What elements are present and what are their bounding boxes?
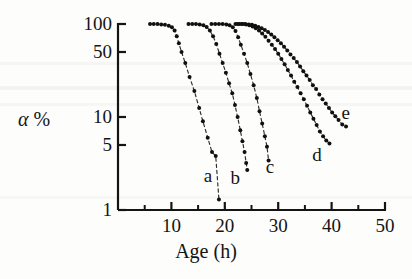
data-point [289, 73, 293, 77]
data-point [233, 103, 237, 107]
data-point [302, 97, 306, 101]
data-point [210, 150, 214, 154]
y-axis-title: α % [18, 108, 50, 131]
x-axis-title: Age (h) [0, 240, 412, 263]
data-point [206, 136, 210, 140]
data-point [152, 22, 156, 26]
y-tick-label-100: 100 [66, 14, 112, 33]
data-series-group [148, 22, 348, 201]
data-point [273, 47, 277, 51]
data-point [333, 114, 337, 118]
data-point [314, 87, 318, 91]
series-label-d: d [312, 145, 322, 164]
data-point [213, 22, 217, 26]
data-point [239, 22, 243, 26]
data-point [214, 42, 218, 46]
data-point [321, 134, 325, 138]
data-point [295, 85, 299, 89]
data-point [299, 91, 303, 95]
data-point [286, 68, 290, 72]
data-point [282, 45, 286, 49]
data-point [183, 61, 187, 65]
data-point [270, 43, 274, 47]
data-point [236, 35, 240, 39]
data-point [276, 38, 280, 42]
data-point [263, 35, 267, 39]
data-point [288, 52, 292, 56]
data-point [340, 123, 344, 127]
data-point [192, 89, 196, 93]
y-axis-title-alpha: α [18, 108, 29, 130]
data-point [267, 39, 271, 43]
data-point [197, 106, 201, 110]
data-point [292, 56, 296, 60]
y-tick-label-50: 50 [66, 42, 112, 61]
data-point [236, 115, 240, 119]
data-point [159, 22, 163, 26]
data-point [279, 41, 283, 45]
series-label-a: a [204, 166, 212, 185]
y-axis-title-percent: % [34, 108, 51, 130]
data-point [209, 22, 213, 26]
data-point [292, 80, 296, 84]
series-label-c: c [266, 157, 274, 176]
data-series-d [233, 22, 331, 145]
data-point [240, 139, 244, 143]
data-point [221, 61, 225, 65]
data-point [205, 25, 209, 29]
data-point [217, 22, 221, 26]
data-series-c [209, 22, 270, 163]
data-point [201, 119, 205, 123]
data-point [317, 92, 321, 96]
data-point [344, 125, 348, 129]
data-point [248, 72, 252, 76]
data-point [283, 62, 287, 66]
data-point [276, 52, 280, 56]
data-point [272, 35, 276, 39]
x-tick-label-20: 20 [205, 216, 245, 235]
data-point [321, 97, 325, 101]
y-tick-label-5: 5 [66, 135, 112, 154]
data-point [301, 69, 305, 73]
data-point [243, 150, 247, 154]
data-point [175, 34, 179, 38]
data-point [236, 22, 240, 26]
x-tick-label-30: 30 [258, 216, 298, 235]
data-point [211, 34, 215, 38]
data-point [188, 75, 192, 79]
data-point [190, 22, 194, 26]
data-point [327, 106, 331, 110]
data-point [208, 29, 212, 33]
data-point [330, 110, 334, 114]
data-point [252, 83, 256, 87]
data-point [255, 96, 259, 100]
data-point [265, 145, 269, 149]
series-label-e: e [342, 103, 350, 122]
data-point [217, 52, 221, 56]
series-connector-line [188, 24, 247, 170]
data-point [230, 91, 234, 95]
data-point [260, 122, 264, 126]
data-point [266, 30, 270, 34]
data-point [327, 141, 331, 145]
data-point [295, 60, 299, 64]
series-label-b: b [230, 168, 240, 187]
chart-plot-area [0, 0, 412, 279]
x-tick-label-40: 40 [312, 216, 352, 235]
data-point [242, 52, 246, 56]
data-point [298, 64, 302, 68]
data-point [198, 22, 202, 26]
y-tick-label-10: 10 [66, 107, 112, 126]
data-point [173, 29, 177, 33]
data-point [260, 32, 264, 36]
data-point [231, 25, 235, 29]
data-point [337, 118, 341, 122]
data-point [224, 71, 228, 75]
data-point [285, 48, 289, 52]
data-point [217, 197, 221, 201]
data-point [170, 25, 174, 29]
y-tick-label-1: 1 [66, 200, 112, 219]
data-point [221, 22, 225, 26]
data-point [305, 73, 309, 77]
data-point [269, 33, 273, 37]
